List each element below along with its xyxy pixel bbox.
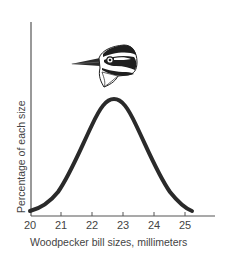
y-axis-label: Percentage of each size bbox=[15, 100, 27, 213]
bell-curve-chart: 20 21 22 23 24 25 Woodpecker bill sizes,… bbox=[0, 0, 229, 255]
bell-curve-line bbox=[30, 99, 192, 211]
x-tick-label: 25 bbox=[179, 219, 191, 231]
x-tick-label: 21 bbox=[55, 219, 67, 231]
x-tick-label: 24 bbox=[148, 219, 160, 231]
x-axis-label: Woodpecker bill sizes, millimeters bbox=[30, 236, 187, 248]
woodpecker-head-icon bbox=[71, 45, 137, 87]
x-tick-label: 22 bbox=[86, 219, 98, 231]
x-tick-label: 20 bbox=[24, 219, 36, 231]
x-tick-label: 23 bbox=[117, 219, 129, 231]
